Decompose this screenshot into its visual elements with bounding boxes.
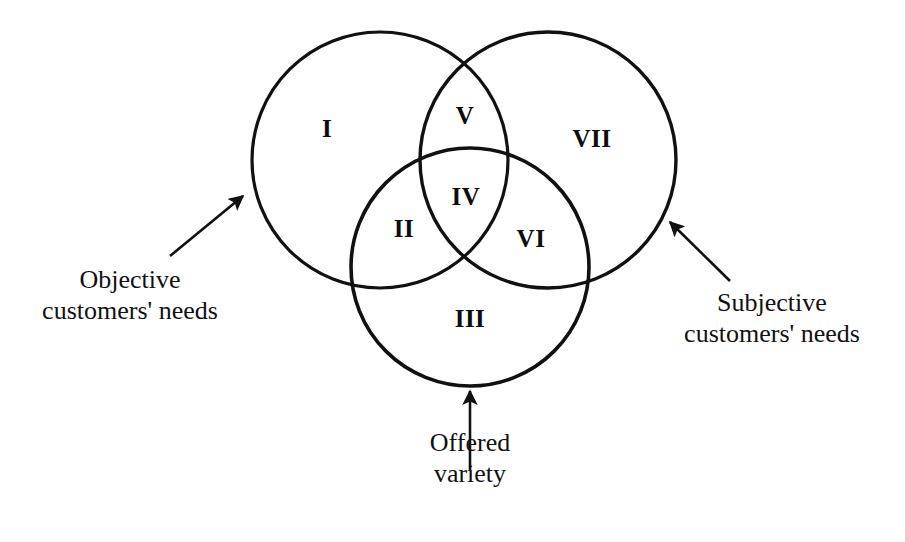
region-label-vii: VII — [572, 126, 611, 151]
callout-subjective-line-1: Subjective — [684, 288, 860, 319]
callout-subjective-customers-needs: Subjective customers' needs — [684, 288, 860, 349]
callout-subjective-line-2: customers' needs — [684, 319, 860, 350]
callout-objective-line-2: customers' needs — [42, 296, 218, 327]
arrow-subjective-customers-needs — [670, 222, 730, 281]
callout-objective-customers-needs: Objective customers' needs — [42, 265, 218, 326]
region-label-vi: VI — [517, 226, 546, 251]
venn-diagram: I II III IV V VI VII Objective customers… — [0, 0, 905, 542]
callout-offered-variety: Offered variety — [430, 428, 510, 489]
callout-objective-line-1: Objective — [42, 265, 218, 296]
region-label-ii: II — [394, 216, 414, 241]
arrow-objective-customers-needs — [170, 196, 243, 256]
region-label-i: I — [322, 116, 332, 141]
callout-offered-line-2: variety — [430, 459, 510, 490]
region-label-v: V — [456, 103, 475, 128]
callout-offered-line-1: Offered — [430, 428, 510, 459]
region-label-iii: III — [455, 306, 486, 331]
region-label-iv: IV — [452, 184, 481, 209]
